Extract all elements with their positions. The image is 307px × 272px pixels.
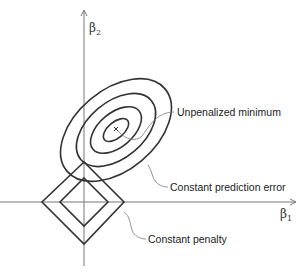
axes	[0, 10, 296, 266]
leader-penalty	[124, 212, 146, 239]
leader-contours	[148, 165, 168, 187]
penalty-diamonds	[42, 162, 124, 244]
x-axis-label: β1	[280, 207, 292, 223]
label-constant-prediction-error: Constant prediction error	[170, 181, 286, 193]
label-constant-penalty: Constant penalty	[148, 233, 228, 245]
minimum-marker-icon	[114, 127, 118, 131]
leader-minimum	[118, 112, 174, 139]
contour-1	[99, 114, 132, 146]
contour-3	[63, 79, 169, 181]
label-unpenalized-minimum: Unpenalized minimum	[177, 106, 281, 118]
contour-2	[82, 98, 150, 163]
y-axis-label: β2	[89, 21, 101, 37]
lasso-diagram: β2 β1 Unpenalized minimum Constant predi…	[0, 0, 307, 272]
diamond-outer	[42, 162, 124, 244]
